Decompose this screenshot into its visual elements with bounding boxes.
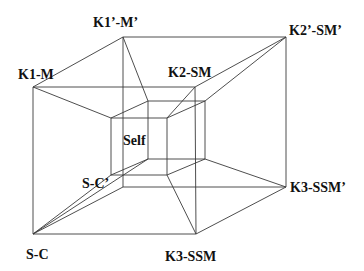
label-k3-ssmp: K3-SSM’ xyxy=(290,181,346,195)
label-k2-sm: K2-SM xyxy=(168,66,212,80)
label-self: Self xyxy=(123,134,146,148)
label-k1-m: K1-M xyxy=(18,68,54,82)
outer-back-square xyxy=(123,37,286,187)
label-k1p-mp: K1’-M’ xyxy=(93,16,138,30)
outer-to-inner-connectors xyxy=(33,37,286,234)
label-k3-ssm: K3-SSM xyxy=(165,250,216,264)
hypercube-diagram xyxy=(0,0,364,271)
inner-back-square xyxy=(148,101,205,159)
label-s-c: S-C xyxy=(26,248,49,262)
label-s-cp: S-C’ xyxy=(82,177,109,191)
label-k2p-smp: K2’-SM’ xyxy=(289,24,342,38)
outer-front-square xyxy=(33,87,196,234)
